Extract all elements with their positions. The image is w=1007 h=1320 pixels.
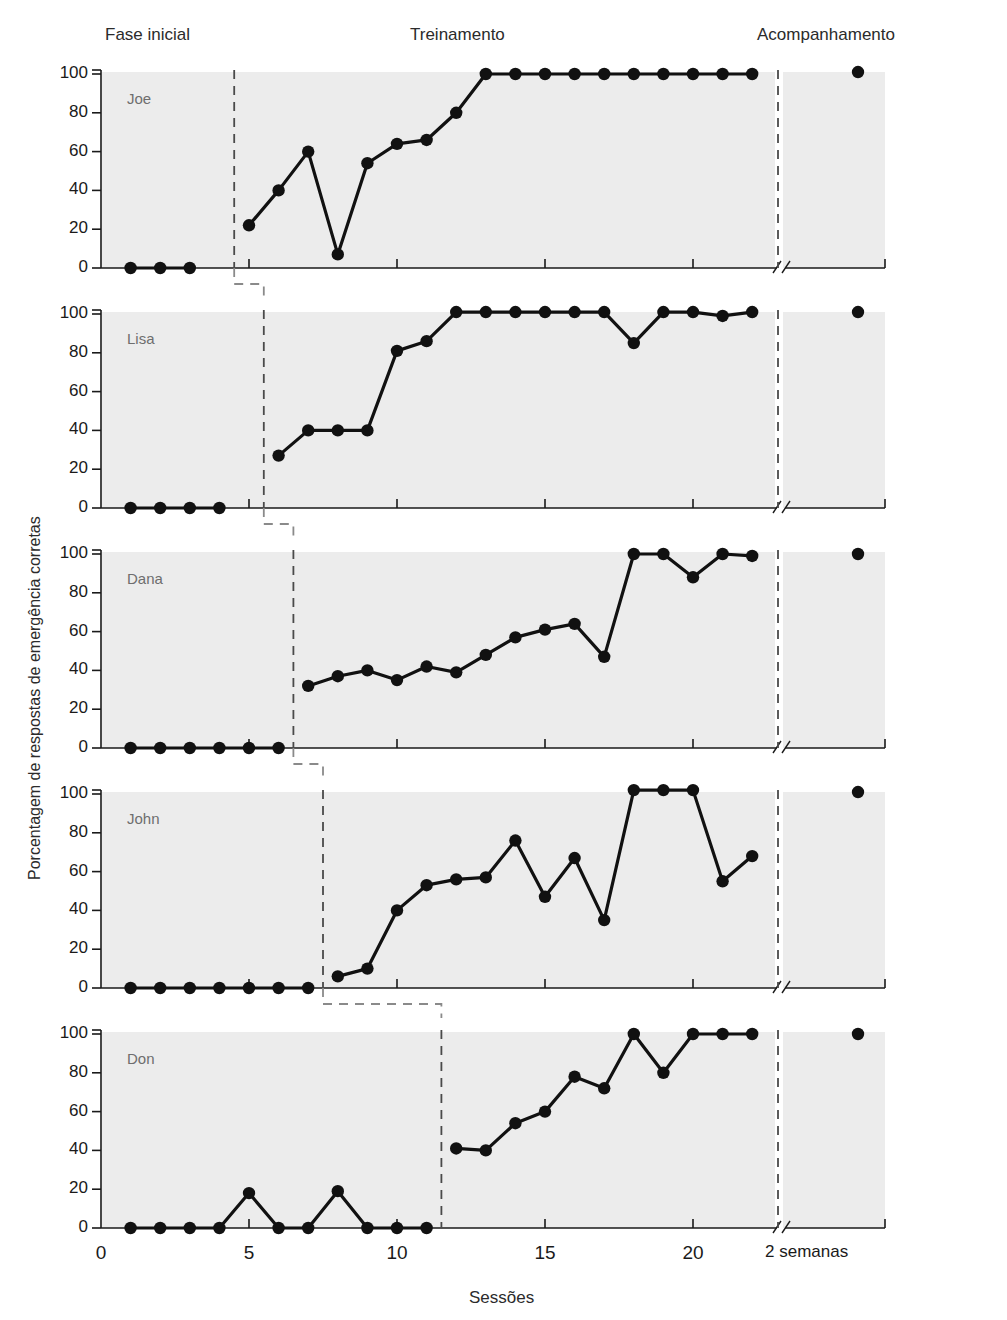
baseline-marker bbox=[302, 982, 314, 994]
subject-label: Joe bbox=[127, 90, 151, 107]
training-marker bbox=[568, 68, 580, 80]
training-marker bbox=[361, 157, 373, 169]
y-tick-label: 20 bbox=[4, 938, 88, 958]
training-marker bbox=[598, 306, 610, 318]
baseline-marker bbox=[332, 1185, 344, 1197]
followup-marker bbox=[852, 786, 864, 798]
followup-marker bbox=[852, 306, 864, 318]
training-marker bbox=[657, 1067, 669, 1079]
training-marker bbox=[568, 618, 580, 630]
training-marker bbox=[687, 1028, 699, 1040]
y-tick-label: 0 bbox=[4, 977, 88, 997]
training-marker bbox=[598, 651, 610, 663]
training-marker bbox=[687, 571, 699, 583]
phase-label-baseline: Fase inicial bbox=[105, 25, 190, 45]
baseline-marker bbox=[272, 982, 284, 994]
training-marker bbox=[332, 670, 344, 682]
baseline-marker bbox=[213, 1222, 225, 1234]
training-marker bbox=[657, 548, 669, 560]
y-tick-label: 60 bbox=[4, 381, 88, 401]
baseline-marker bbox=[272, 1222, 284, 1234]
baseline-marker bbox=[154, 262, 166, 274]
training-marker bbox=[450, 107, 462, 119]
phase-change-staircase bbox=[293, 748, 323, 778]
training-marker bbox=[361, 962, 373, 974]
training-marker bbox=[243, 219, 255, 231]
training-marker bbox=[628, 1028, 640, 1040]
training-marker bbox=[509, 1117, 521, 1129]
training-marker bbox=[628, 337, 640, 349]
training-marker bbox=[480, 68, 492, 80]
y-tick-label: 20 bbox=[4, 698, 88, 718]
training-marker bbox=[657, 784, 669, 796]
training-marker bbox=[657, 306, 669, 318]
subject-label: John bbox=[127, 810, 160, 827]
training-marker bbox=[332, 970, 344, 982]
training-marker bbox=[302, 424, 314, 436]
baseline-marker bbox=[243, 742, 255, 754]
plot-background bbox=[102, 792, 775, 988]
baseline-marker bbox=[124, 982, 136, 994]
training-marker bbox=[628, 548, 640, 560]
y-tick-label: 100 bbox=[4, 543, 88, 563]
y-tick-label: 80 bbox=[4, 102, 88, 122]
baseline-marker bbox=[420, 1222, 432, 1234]
panel-don: Don bbox=[0, 1023, 1007, 1259]
x-tick-label: 5 bbox=[209, 1242, 289, 1264]
y-tick-label: 60 bbox=[4, 621, 88, 641]
followup-marker bbox=[852, 1028, 864, 1040]
training-marker bbox=[539, 1105, 551, 1117]
y-tick-label: 0 bbox=[4, 737, 88, 757]
training-marker bbox=[687, 306, 699, 318]
panel-joe: Joe bbox=[0, 63, 1007, 299]
training-marker bbox=[420, 335, 432, 347]
baseline-marker bbox=[272, 742, 284, 754]
plot-background bbox=[102, 312, 775, 508]
y-tick-label: 40 bbox=[4, 659, 88, 679]
training-marker bbox=[302, 680, 314, 692]
plot-background-followup bbox=[783, 72, 885, 268]
training-marker bbox=[598, 914, 610, 926]
y-tick-label: 40 bbox=[4, 419, 88, 439]
y-tick-label: 0 bbox=[4, 497, 88, 517]
y-tick-label: 80 bbox=[4, 582, 88, 602]
training-marker bbox=[539, 68, 551, 80]
baseline-marker bbox=[243, 982, 255, 994]
training-marker bbox=[480, 871, 492, 883]
baseline-marker bbox=[302, 1222, 314, 1234]
baseline-marker bbox=[184, 502, 196, 514]
y-tick-label: 20 bbox=[4, 458, 88, 478]
training-marker bbox=[450, 873, 462, 885]
training-marker bbox=[598, 68, 610, 80]
training-marker bbox=[539, 891, 551, 903]
baseline-marker bbox=[243, 1187, 255, 1199]
baseline-marker bbox=[184, 742, 196, 754]
baseline-marker bbox=[124, 502, 136, 514]
subject-label: Lisa bbox=[127, 330, 155, 347]
baseline-marker bbox=[213, 502, 225, 514]
training-marker bbox=[598, 1082, 610, 1094]
training-marker bbox=[509, 68, 521, 80]
x-tick-label-followup: 2 semanas bbox=[765, 1242, 925, 1262]
y-tick-label: 60 bbox=[4, 1101, 88, 1121]
x-tick-label: 20 bbox=[653, 1242, 733, 1264]
training-marker bbox=[509, 631, 521, 643]
training-marker bbox=[746, 850, 758, 862]
baseline-marker bbox=[124, 742, 136, 754]
y-tick-label: 40 bbox=[4, 899, 88, 919]
y-tick-label: 80 bbox=[4, 342, 88, 362]
training-marker bbox=[450, 306, 462, 318]
y-tick-label: 20 bbox=[4, 1178, 88, 1198]
training-marker bbox=[302, 145, 314, 157]
training-marker bbox=[628, 784, 640, 796]
y-tick-label: 60 bbox=[4, 861, 88, 881]
training-marker bbox=[657, 68, 669, 80]
subject-label: Dana bbox=[127, 570, 164, 587]
training-marker bbox=[716, 310, 728, 322]
training-marker bbox=[746, 550, 758, 562]
followup-marker bbox=[852, 66, 864, 78]
multiple-baseline-figure: Fase inicial Treinamento Acompanhamento … bbox=[0, 0, 1007, 1320]
training-marker bbox=[420, 879, 432, 891]
baseline-marker bbox=[213, 742, 225, 754]
panel-dana: Dana bbox=[0, 543, 1007, 779]
